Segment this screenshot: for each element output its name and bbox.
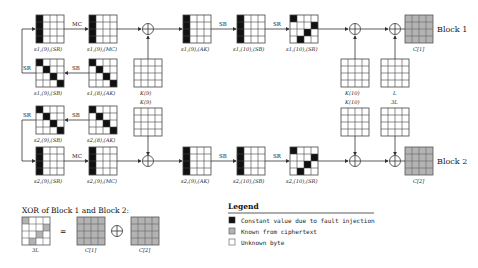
state-grid-b2-s8-ak (89, 106, 117, 134)
state-label: s1,(9),(SB) (34, 90, 62, 96)
legend-swatch-fault (229, 217, 235, 223)
key-label: K(9) (139, 99, 151, 105)
diagram-canvas: MC SB SR s1,(9),(SR) s1,(9),(MC) s1,(9),… (0, 0, 478, 268)
block-title: Block 2 (437, 157, 467, 166)
key-grid-k10 (341, 108, 369, 136)
state-grid-b1-s8-ak (89, 59, 117, 87)
state-label: s2,(9),(SB) (34, 137, 62, 143)
state-grid-b2-s10-sb (237, 147, 265, 175)
state-label: s2,(9),(SR) (34, 178, 62, 184)
result-grid-3l (22, 217, 50, 245)
tweak-grid-l (381, 59, 409, 87)
xor-icon (390, 24, 401, 35)
legend: Legend Constant value due to fault injec… (228, 202, 375, 247)
ciphertext-grid-c1 (405, 15, 433, 43)
block-2: K(9) K(10) 3L SB SR s2,(9),(SB) s2,(8),(… (22, 99, 467, 184)
xor-icon (350, 24, 361, 35)
state-grid-b1-s10-sr (290, 15, 318, 43)
op-label-sr: SR (23, 112, 32, 118)
ciphertext-label: C[2] (413, 178, 425, 184)
tweak-grid-3l (381, 108, 409, 136)
block-1: MC SB SR s1,(9),(SR) s1,(9),(MC) s1,(9),… (22, 15, 467, 96)
block-title: Block 1 (437, 25, 467, 34)
key-label: K(10) (344, 99, 360, 105)
result-label: 3L (32, 247, 39, 253)
key-grid-k9 (134, 108, 162, 136)
state-grid-b1-s9-sr (36, 15, 64, 43)
legend-item-label: Unknown byte (241, 239, 285, 247)
state-grid-b2-s9-sr (36, 147, 64, 175)
key-grid-k10 (341, 59, 369, 87)
state-label: s2,(10),(SB) (233, 178, 264, 184)
op-label-mc: MC (72, 153, 82, 159)
op-label-sr: SR (273, 21, 282, 27)
state-grid-b1-s9-ak (183, 15, 211, 43)
tweak-label: 3L (391, 99, 398, 105)
state-grid-b2-s9-mc (89, 147, 117, 175)
legend-title: Legend (228, 202, 260, 211)
op-label-sb: SB (72, 65, 80, 71)
state-label: s2,(9),(MC) (87, 178, 117, 184)
xor-icon (143, 24, 154, 35)
legend-swatch-known (229, 228, 235, 234)
xor-icon (143, 156, 154, 167)
xor-icon (350, 156, 361, 167)
xor-icon (390, 156, 401, 167)
operand-grid-c2 (131, 217, 159, 245)
legend-item-label: Known from ciphertext (241, 228, 317, 236)
state-label: s1,(9),(SR) (34, 46, 62, 52)
ciphertext-grid-c2 (405, 147, 433, 175)
operand-label: C[1] (85, 247, 97, 253)
key-label: K(9) (139, 90, 151, 96)
state-label: s2,(8),(AK) (87, 137, 115, 143)
state-label: s2,(10),(SR) (286, 178, 317, 184)
tweak-label: L (392, 90, 397, 96)
key-grid-k9 (134, 59, 162, 87)
state-grid-b1-s10-sb (237, 15, 265, 43)
state-label: s1,(9),(MC) (87, 46, 117, 52)
operand-label: C[2] (139, 247, 151, 253)
op-label-sr: SR (273, 153, 282, 159)
xor-section: XOR of Block 1 and Block 2: 3L = C[1] C[… (22, 206, 159, 253)
op-label-sb: SB (72, 112, 80, 118)
legend-swatch-unknown (229, 239, 235, 245)
state-grid-b1-s9-mc (89, 15, 117, 43)
state-grid-b2-s10-sr (290, 147, 318, 175)
op-label-mc: MC (72, 21, 82, 27)
state-label: s1,(8),(AK) (87, 90, 115, 96)
xor-icon (112, 226, 123, 237)
equals-sign: = (60, 227, 66, 236)
state-grid-b2-s9-ak (183, 147, 211, 175)
xor-section-title: XOR of Block 1 and Block 2: (22, 206, 129, 215)
ciphertext-label: C[1] (413, 46, 425, 52)
state-label: s1,(9),(AK) (181, 46, 209, 52)
state-label: s1,(10),(SR) (286, 46, 317, 52)
legend-item-label: Constant value due to fault injection (241, 217, 375, 225)
state-grid-b2-s9-sb (36, 106, 64, 134)
state-grid-b1-s9-sb (36, 59, 64, 87)
op-label-sb: SB (219, 153, 227, 159)
key-label: K(10) (344, 90, 360, 96)
state-label: s1,(10),(SB) (233, 46, 264, 52)
op-label-sb: SB (219, 21, 227, 27)
op-label-sr: SR (23, 65, 32, 71)
state-label: s2,(9),(AK) (181, 178, 209, 184)
operand-grid-c1 (77, 217, 105, 245)
